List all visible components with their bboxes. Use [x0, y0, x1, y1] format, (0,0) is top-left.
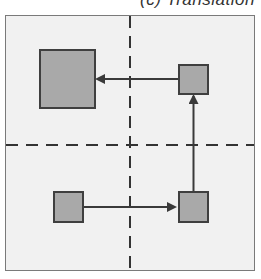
top-right-square: [179, 65, 208, 94]
diagram-canvas: [0, 0, 261, 279]
bottom-right-square: [179, 192, 208, 222]
large-square: [40, 50, 95, 108]
bottom-left-square: [54, 192, 83, 222]
